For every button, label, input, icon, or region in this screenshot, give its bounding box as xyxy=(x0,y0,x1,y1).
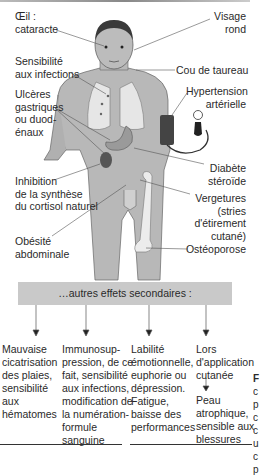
col-line: sensible aux xyxy=(196,420,254,433)
col-line: dépression. xyxy=(131,382,195,395)
col-line: Immunosup- xyxy=(62,343,133,356)
label-stretch-marks: Vergetures (stries d'étirement cutané) xyxy=(186,192,246,242)
label-eye-line1: Œil : xyxy=(15,10,58,23)
label-ulcers: Ulcères gastriques ou duod- énaux xyxy=(15,88,63,138)
caption-line: c xyxy=(253,385,265,398)
label-stretch-marks-line3: d'étirement xyxy=(186,217,246,230)
label-infections-line2: aux infections xyxy=(15,68,79,81)
column-cutaneous: Lors d'application cutanée xyxy=(196,343,254,382)
label-ulcers-line3: ou duod- xyxy=(15,113,63,126)
col-line: Labilité xyxy=(131,343,195,356)
label-infections: Sensibilité aux infections xyxy=(15,55,79,80)
column-healing: Mauvaise cicatrisation des plaies, sensi… xyxy=(2,343,57,421)
col-line: cutanée xyxy=(196,369,254,382)
col-line: cicatrisation xyxy=(2,356,57,369)
label-hypertension-line2: artérielle xyxy=(186,98,246,111)
col-line: des plaies, xyxy=(2,369,57,382)
col-line: atrophique, xyxy=(196,407,254,420)
label-face-line1: Visage xyxy=(196,10,246,23)
label-stretch-marks-line4: cutané) xyxy=(186,230,246,243)
col-line: sensibilité xyxy=(2,382,57,395)
caption-line: F xyxy=(253,372,265,385)
label-obesity-line1: Obésité xyxy=(15,235,69,248)
bottom-rule xyxy=(0,444,122,445)
label-neck-line1: Cou de taureau xyxy=(176,64,246,77)
caption-line: c xyxy=(253,450,265,463)
col-line: Peau xyxy=(196,394,254,407)
label-hypertension: Hypertension artérielle xyxy=(186,85,246,110)
col-line: euphorie ou xyxy=(131,369,195,382)
label-diabetes-line2: stéroïde xyxy=(196,175,246,188)
col-line: Fatigue, xyxy=(131,395,195,408)
col-line: Mauvaise xyxy=(2,343,57,356)
col-line: aux infections, xyxy=(62,382,133,395)
col-line: d'application xyxy=(196,356,254,369)
other-side-effects-box: …autres effets secondaires : xyxy=(18,282,232,305)
label-face: Visage rond xyxy=(196,10,246,35)
label-ulcers-line2: gastriques xyxy=(15,101,63,114)
label-diabetes: Diabète stéroïde xyxy=(196,162,246,187)
label-ulcers-line1: Ulcères xyxy=(15,88,63,101)
label-inhibition-line3: du cortisol naturel xyxy=(15,200,98,213)
label-inhibition-line2: de la synthèse xyxy=(15,188,98,201)
col-line: hématomes xyxy=(2,408,57,421)
col-line: aux xyxy=(2,395,57,408)
caption-line: p xyxy=(253,398,265,411)
caption-line: u xyxy=(253,437,265,450)
bottom-rule xyxy=(130,444,252,445)
col-line: fait, sensibilité xyxy=(62,369,133,382)
label-eye-line2: cataracte xyxy=(15,23,58,36)
caption-line: p xyxy=(253,463,265,476)
col-line: performances xyxy=(131,421,195,434)
label-osteoporosis-line1: Ostéoporose xyxy=(176,243,246,256)
label-neck: Cou de taureau xyxy=(176,64,246,77)
column-skin-atrophy: Peau atrophique, sensible aux blessures xyxy=(196,394,254,446)
label-obesity: Obésité abdominale xyxy=(15,235,69,260)
caption-line: c xyxy=(253,411,265,424)
col-line: émotionnelle, xyxy=(131,356,195,369)
label-ulcers-line4: énaux xyxy=(15,126,63,139)
col-line: pression, de ce xyxy=(62,356,133,369)
label-infections-line1: Sensibilité xyxy=(15,55,79,68)
column-immunosuppression: Immunosup- pression, de ce fait, sensibi… xyxy=(62,343,133,447)
label-diabetes-line1: Diabète xyxy=(196,162,246,175)
label-stretch-marks-line1: Vergetures xyxy=(186,192,246,205)
label-inhibition: Inhibition de la synthèse du cortisol na… xyxy=(15,175,98,213)
col-line: formule xyxy=(62,421,133,434)
col-line: la numération- xyxy=(62,408,133,421)
label-face-line2: rond xyxy=(196,23,246,36)
label-eye: Œil : cataracte xyxy=(15,10,58,35)
label-hypertension-line1: Hypertension xyxy=(186,85,246,98)
column-emotional: Labilité émotionnelle, euphorie ou dépre… xyxy=(131,343,195,434)
label-stretch-marks-line2: (stries xyxy=(186,205,246,218)
caption-line: c xyxy=(253,424,265,437)
col-line: baisse des xyxy=(131,408,195,421)
figure-caption-cropped: F c p c c u c p xyxy=(253,372,265,476)
label-inhibition-line1: Inhibition xyxy=(15,175,98,188)
label-obesity-line2: abdominale xyxy=(15,248,69,261)
col-line: Lors xyxy=(196,343,254,356)
col-line: modification de xyxy=(62,395,133,408)
col-line: sanguine xyxy=(62,434,133,447)
label-osteoporosis: Ostéoporose xyxy=(176,243,246,256)
